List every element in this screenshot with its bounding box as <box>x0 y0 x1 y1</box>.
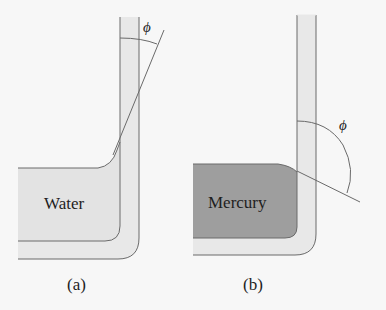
angle-label-a: ϕ <box>143 19 151 35</box>
panel-a: ϕ Water (a) <box>18 17 164 294</box>
liquid-label-water: Water <box>44 194 84 213</box>
caption-a: (a) <box>67 275 86 294</box>
panel-b: ϕ Mercury (b) <box>193 15 360 294</box>
angle-label-b: ϕ <box>339 117 347 133</box>
caption-b: (b) <box>243 275 263 294</box>
water-fill <box>18 142 120 241</box>
liquid-label-mercury: Mercury <box>208 193 267 212</box>
water-meniscus <box>18 142 120 168</box>
capillary-diagram: ϕ Water (a) ϕ Mercury (b) <box>0 0 386 310</box>
